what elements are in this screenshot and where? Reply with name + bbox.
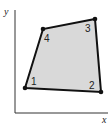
y-axis-label: y [3,6,9,17]
vertex-3 [93,17,98,22]
vertex-4 [41,27,46,32]
vertex-label-2: 2 [89,80,95,91]
vertex-2 [99,90,104,95]
x-axis-label: x [101,114,107,124]
quadrilateral-diagram: y x 1 2 3 4 [0,0,110,124]
vertex-1 [23,86,28,91]
vertex-label-3: 3 [85,23,91,34]
vertex-label-1: 1 [31,76,37,87]
vertex-label-4: 4 [44,33,50,44]
